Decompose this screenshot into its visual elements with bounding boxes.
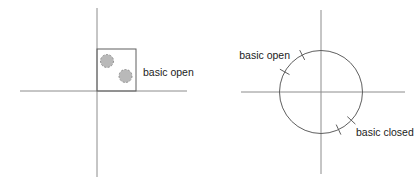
right-basic-closed-label: basic closed — [356, 126, 414, 138]
basic-open-square — [97, 49, 136, 91]
closed-arc-tick-lower — [336, 125, 341, 135]
topology-diagram-canvas: basic open basic open basic closed — [0, 0, 419, 184]
right-basic-open-label: basic open — [239, 49, 290, 61]
right-diagram: basic open basic closed — [239, 10, 414, 174]
open-arc-tick-upper — [300, 50, 305, 60]
open-disc-near-edge — [119, 70, 132, 83]
open-disc-upper-left — [101, 55, 114, 68]
left-diagram: basic open — [20, 8, 194, 177]
figure-page: basic open basic open basic closed — [0, 0, 419, 184]
open-arc-tick-lower — [280, 69, 290, 74]
left-basic-open-label: basic open — [143, 66, 194, 78]
